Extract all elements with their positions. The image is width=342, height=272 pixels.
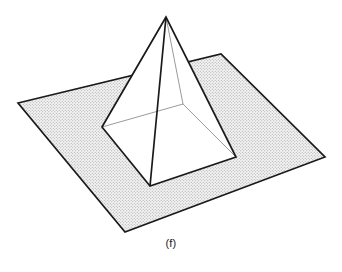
figure-caption: (f) bbox=[0, 236, 342, 250]
figure-panel: (f) bbox=[0, 0, 342, 272]
pyramid-on-plane-drawing bbox=[0, 0, 342, 272]
